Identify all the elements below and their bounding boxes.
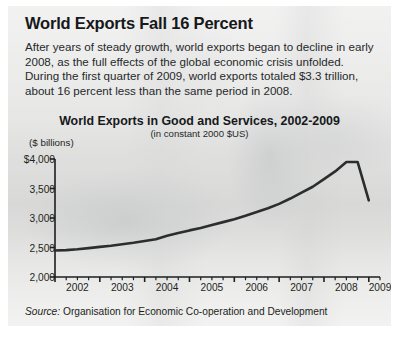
y-tick-label: 3,000: [8, 213, 55, 224]
source-label: Source:: [25, 306, 60, 317]
source-text: Organisation for Economic Co-operation a…: [63, 306, 327, 317]
x-tick-label: 2005: [188, 282, 236, 293]
x-tick-label: 2009: [356, 282, 391, 293]
x-tick-label: 2006: [233, 282, 281, 293]
y-tick-label: 3,500: [8, 183, 55, 194]
x-tick-label: 2002: [53, 282, 101, 293]
exports-line-chart: [8, 6, 391, 326]
x-tick-label: 2004: [143, 282, 191, 293]
x-tick-label: 2003: [98, 282, 146, 293]
y-tick-label: 2,000: [8, 272, 55, 283]
y-tick-label: 2,500: [8, 242, 55, 253]
infographic-panel: World Exports Fall 16 Percent After year…: [8, 6, 391, 326]
y-tick-label: $4,000: [8, 154, 55, 165]
source-note: Source: Organisation for Economic Co-ope…: [25, 306, 327, 317]
chart-plot-area: 2,0002,5003,0003,500$4,000 2002200320042…: [8, 6, 391, 326]
infographic-content: World Exports Fall 16 Percent After year…: [8, 6, 391, 326]
x-tick-label: 2007: [278, 282, 326, 293]
